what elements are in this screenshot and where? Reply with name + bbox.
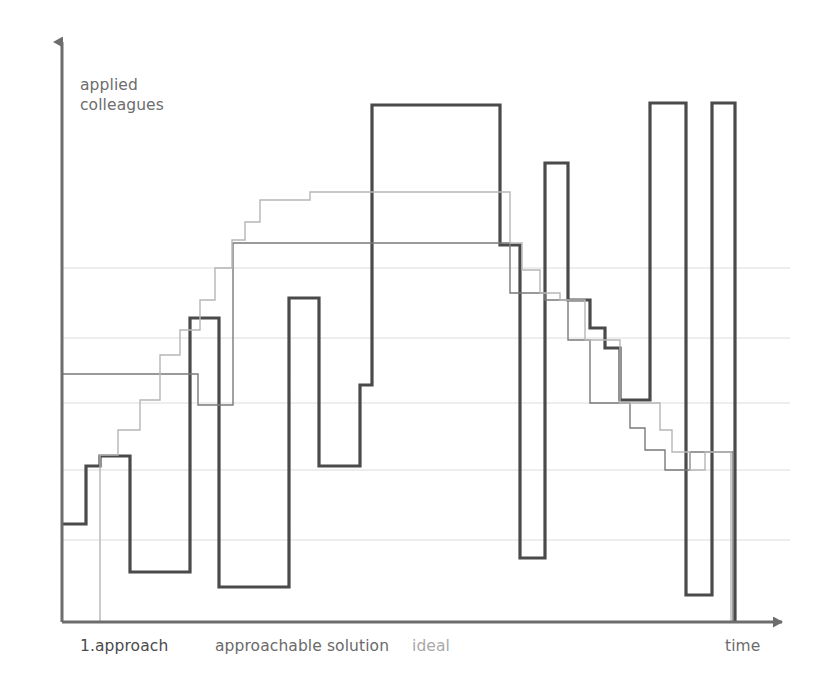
legend-item-approach: 1.approach: [80, 637, 168, 655]
series-lines: [62, 103, 735, 622]
legend-item-approachable-solution: approachable solution: [215, 637, 389, 655]
gridlines: [62, 268, 790, 540]
legend-item-ideal: ideal: [412, 637, 450, 655]
x-axis-label: time: [725, 637, 760, 655]
chart-container: applied colleagues 1.approach approachab…: [0, 0, 831, 692]
series-line-1-approach: [62, 103, 735, 622]
series-line-approachable-solution: [62, 243, 733, 622]
y-axis-label: applied colleagues: [80, 76, 164, 116]
